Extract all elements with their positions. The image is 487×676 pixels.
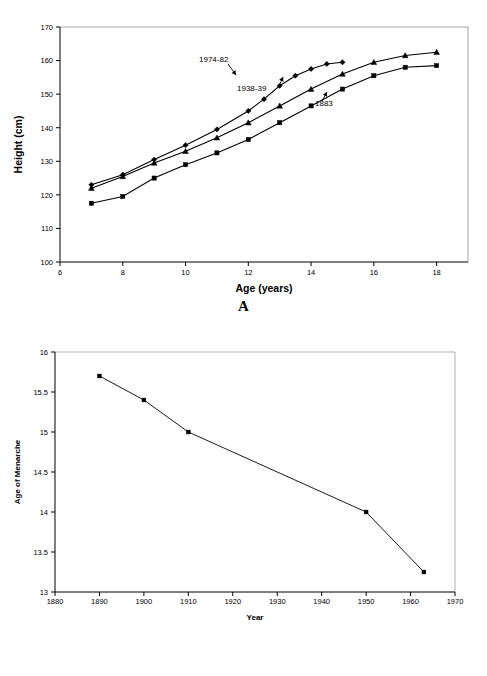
data-point-marker <box>142 398 146 402</box>
annotation-arrowhead <box>232 70 236 75</box>
x-axis-tick-label: 12 <box>244 268 252 277</box>
data-point-marker <box>98 374 102 378</box>
data-point-marker <box>89 201 93 205</box>
x-axis-tick-label: 1970 <box>447 597 464 606</box>
x-axis-tick-label: 1880 <box>47 597 64 606</box>
data-point-marker <box>340 87 344 91</box>
x-axis-title: Age (years) <box>235 282 292 294</box>
x-axis-tick-label: 18 <box>432 268 440 277</box>
y-axis-tick-label: 13.5 <box>33 548 48 557</box>
data-point-marker <box>293 73 298 78</box>
data-point-marker <box>372 74 376 78</box>
data-point-marker <box>246 137 250 141</box>
data-point-marker <box>308 66 313 71</box>
y-axis-tick-label: 16 <box>40 348 48 357</box>
data-point-marker <box>277 103 283 108</box>
panel-b-frame <box>55 352 455 592</box>
y-axis-tick-label: 13 <box>40 588 48 597</box>
y-axis-tick-label: 160 <box>40 56 53 65</box>
data-point-marker <box>215 151 219 155</box>
data-point-marker <box>278 121 282 125</box>
y-axis-tick-label: 170 <box>40 23 53 32</box>
data-point-marker <box>183 143 188 148</box>
data-point-marker <box>183 163 187 167</box>
data-point-marker <box>340 60 345 65</box>
data-point-marker <box>245 120 251 125</box>
y-axis-tick-label: 110 <box>41 224 53 233</box>
panel-a-letter: A <box>0 298 487 315</box>
x-axis-tick-label: 1960 <box>402 597 419 606</box>
data-point-marker <box>422 570 426 574</box>
panel-a-axes <box>60 27 468 262</box>
data-point-marker <box>186 430 190 434</box>
y-axis-tick-label: 100 <box>40 258 53 267</box>
x-axis-tick-label: 1890 <box>91 597 108 606</box>
x-axis-tick-label: 10 <box>181 268 189 277</box>
panel-b-svg: 1313.51414.51515.51618801890190019101920… <box>0 330 487 650</box>
y-axis-tick-label: 130 <box>40 157 53 166</box>
x-axis-tick-label: 1900 <box>136 597 153 606</box>
x-axis-tick-label: 8 <box>121 268 125 277</box>
y-axis-tick-label: 150 <box>40 90 53 99</box>
annotation-label-1938-39: 1938-39 <box>237 84 267 93</box>
y-axis-title: Height (cm) <box>12 116 24 174</box>
data-point-marker <box>214 135 220 140</box>
x-axis-tick-label: 1930 <box>269 597 286 606</box>
panel-a-svg: 100110120130140150160170681012141618Age … <box>0 0 487 330</box>
data-point-marker <box>435 64 439 68</box>
data-point-marker <box>403 65 407 69</box>
figure-container: 100110120130140150160170681012141618Age … <box>0 0 487 676</box>
y-axis-title: Age of Menarche <box>13 439 22 504</box>
annotation-label-1883: 1883 <box>315 99 333 108</box>
x-axis-tick-label: 14 <box>307 268 315 277</box>
panel-a-height-by-age-chart: 100110120130140150160170681012141618Age … <box>0 0 487 330</box>
x-axis-tick-label: 1940 <box>313 597 330 606</box>
data-point-marker <box>324 61 329 66</box>
panel-b-age-of-menarche-chart: 1313.51414.51515.51618801890190019101920… <box>0 330 487 676</box>
data-point-marker <box>364 510 368 514</box>
x-axis-tick-label: 1950 <box>358 597 375 606</box>
panel-b-axes <box>55 352 455 592</box>
panel-a-frame <box>60 27 468 262</box>
x-axis-tick-label: 6 <box>58 268 62 277</box>
data-point-marker <box>152 176 156 180</box>
y-axis-tick-label: 120 <box>40 191 53 200</box>
series-line-1974-82 <box>91 62 342 185</box>
y-axis-tick-label: 15.5 <box>33 388 48 397</box>
annotation-label-1974-82: 1974-82 <box>199 55 229 64</box>
y-axis-tick-label: 14 <box>40 508 48 517</box>
data-point-marker <box>309 104 313 108</box>
x-axis-tick-label: 1920 <box>224 597 241 606</box>
data-point-marker <box>214 127 219 132</box>
y-axis-tick-label: 15 <box>40 428 48 437</box>
series-line-Age of Menarche <box>99 376 423 572</box>
y-axis-tick-label: 140 <box>40 124 53 133</box>
data-point-marker <box>121 194 125 198</box>
y-axis-tick-label: 14.5 <box>33 468 48 477</box>
x-axis-title: Year <box>247 613 264 622</box>
data-point-marker <box>308 86 314 91</box>
x-axis-tick-label: 16 <box>370 268 378 277</box>
x-axis-tick-label: 1910 <box>180 597 197 606</box>
